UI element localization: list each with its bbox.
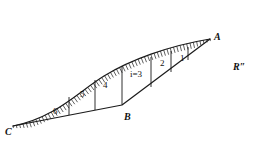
- hatch-mark: [197, 41, 198, 46]
- hatch-mark: [66, 103, 69, 108]
- hatch-mark: [164, 50, 166, 56]
- hatch-mark: [135, 60, 137, 66]
- hatch-mark: [126, 64, 129, 69]
- hatch-mark: [144, 57, 146, 63]
- strip-label-4: 4: [103, 81, 108, 90]
- point-label-c: C: [5, 127, 12, 137]
- strip-label-5: 5: [80, 90, 85, 99]
- hatch-mark: [138, 59, 140, 65]
- hatch-mark: [60, 107, 63, 112]
- region-label-r: R″: [233, 62, 245, 72]
- hatch-mark: [110, 72, 113, 77]
- strip-label-2: 2: [160, 59, 165, 68]
- hatch-mark: [180, 45, 181, 51]
- strip-label-i-equals-3: i=3: [130, 70, 142, 79]
- strip-divider-lines-group: [69, 47, 188, 115]
- hatch-mark: [63, 105, 66, 110]
- hatch-mark: [160, 51, 162, 57]
- hatch-mark: [154, 53, 156, 59]
- point-label-b: B: [124, 112, 131, 122]
- hatch-mark: [116, 69, 119, 74]
- point-label-a: A: [214, 32, 221, 42]
- hatch-mark: [167, 49, 169, 55]
- strip-label-1: 1: [180, 54, 185, 63]
- hatch-mark: [122, 66, 125, 71]
- hatch-mark: [157, 52, 159, 58]
- hatch-mark: [148, 55, 150, 61]
- hatch-mark: [183, 44, 184, 50]
- hatch-mark: [193, 42, 194, 48]
- hatch-mark: [90, 85, 94, 90]
- hatch-mark: [129, 63, 131, 68]
- hatch-mark: [177, 46, 179, 52]
- hatch-mark: [113, 71, 116, 76]
- hatch-mark: [132, 62, 134, 68]
- hatch-mark: [200, 41, 201, 45]
- hatch-mark: [48, 114, 51, 119]
- hatch-mark: [88, 87, 92, 92]
- hatch-mark: [141, 58, 143, 64]
- hatch-mark: [96, 81, 99, 86]
- hatch-mark: [71, 99, 74, 104]
- hatch-mark: [99, 79, 102, 84]
- figure-container: A B C R″ 1 2 i=3 4 5 6: [0, 0, 258, 150]
- hatch-mark: [190, 43, 191, 49]
- hatch-mark: [107, 74, 110, 79]
- hatch-mark: [36, 119, 38, 125]
- hatch-mark: [173, 47, 175, 53]
- strip-label-6: 6: [53, 107, 58, 116]
- hatch-mark: [74, 97, 78, 102]
- hatch-mark: [85, 89, 89, 94]
- figure-drawing: [0, 0, 258, 150]
